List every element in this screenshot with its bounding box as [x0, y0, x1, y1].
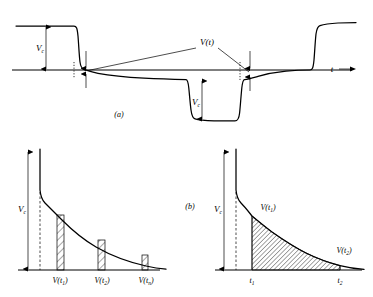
panel-b-left-sample-strip-3 [142, 255, 148, 270]
panel-b-left-sample-label-2: V(t2) [94, 276, 110, 286]
panel-a-axis-label: t [331, 64, 334, 74]
panel-b-left-sample-label-3: V(tn) [138, 276, 154, 286]
panel-a-callout-leader-right [218, 48, 249, 72]
panel-b-right-curve-label-1: V(t1) [260, 203, 276, 213]
panel-b-right-tick-label-t1: t1 [250, 276, 255, 286]
panel-a-signal-label: V(t) [200, 37, 214, 47]
panel-a-caption: (a) [114, 110, 124, 119]
figure-container: Vc Vc V(t) t (a) [0, 0, 373, 297]
panel-b-left-sample-strip-1 [57, 215, 64, 270]
panel-a-vc-top-label: Vc [36, 43, 45, 54]
panel-a-waveform [16, 23, 356, 121]
figure-canvas: Vc Vc V(t) t (a) [0, 0, 373, 297]
panel-b-left-sample-label-1: V(t1) [52, 276, 68, 286]
panel-b-right-vc-label: Vc [214, 204, 223, 215]
panel-a-axis-arrow-head [350, 66, 356, 71]
panel-a-callout-leader-left [88, 48, 196, 71]
panel-b-left-plot: Vc V(t1) V(t2) V(tn) [18, 149, 166, 286]
panel-a: Vc Vc V(t) t (a) [12, 23, 356, 121]
panel-a-vc-bottom-label: Vc [192, 97, 201, 108]
panel-b-caption: (b) [185, 202, 195, 211]
panel-b-left-sample-strip-2 [98, 240, 105, 270]
panel-b-right-curve-label-2: V(t2) [336, 246, 352, 256]
panel-b-left-vc-label: Vc [18, 204, 27, 215]
panel-b-right-tick-label-t2: t2 [338, 276, 343, 286]
panel-b-right-plot: Vc V(t1) V(t2) t1 t2 [214, 149, 364, 286]
